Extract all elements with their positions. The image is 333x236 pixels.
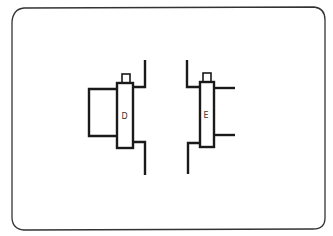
- d-top-lead: [133, 60, 145, 87]
- e-tab: [203, 73, 211, 82]
- d-side-box: [89, 89, 117, 136]
- frame-border: [12, 7, 325, 230]
- diagram-svg: D E: [0, 0, 333, 236]
- d-label: D: [122, 112, 128, 121]
- component-d: D: [89, 60, 145, 175]
- e-top-lead: [187, 60, 200, 87]
- d-tab: [122, 74, 130, 83]
- diagram-canvas: D E: [0, 0, 333, 236]
- d-bottom-lead: [133, 142, 145, 175]
- e-label: E: [204, 111, 209, 120]
- component-e: E: [187, 60, 235, 174]
- e-bottom-lead: [188, 143, 200, 174]
